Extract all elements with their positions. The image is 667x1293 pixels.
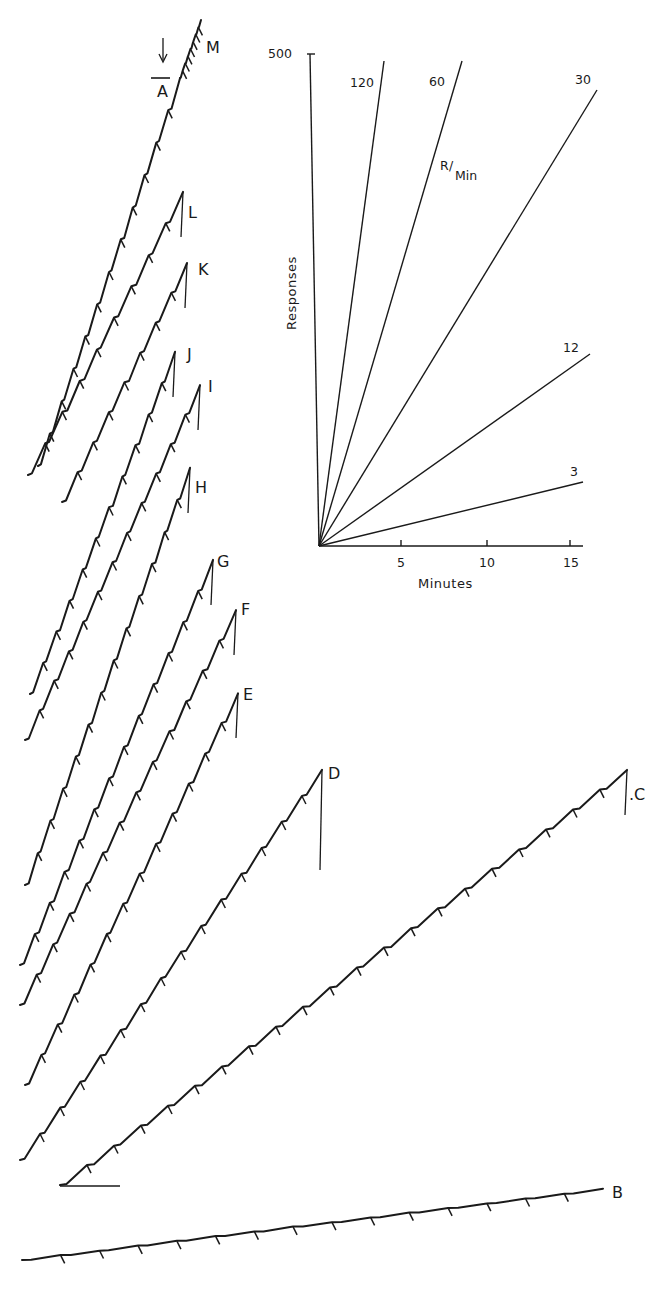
reinforcement-pip [50,821,54,829]
cumulative-curve-d [20,770,322,1160]
reinforcement-pip [154,685,158,693]
reinforcement-pip [89,725,93,733]
reinforcement-pip [564,1194,568,1202]
reinforcement-pip [181,952,185,960]
reinforcement-pip [121,240,125,248]
reinforcement-pip [156,844,160,852]
reinforcement-pip [40,1134,44,1142]
reinforcement-pip [122,476,126,484]
reinforcement-pip [332,1222,336,1230]
reinforcement-pip [156,143,160,151]
reinforcement-pip [170,732,174,740]
rate-label-60: 60 [429,74,445,89]
reinforcement-pip [70,601,74,609]
reinforcement-pip [139,716,143,724]
reinforcement-pip [145,175,149,183]
curve-label-l: L [188,203,197,222]
reinforcement-pip [141,1126,145,1134]
reinforcement-pip [138,1246,142,1254]
cumulative-curve-g [20,560,213,965]
reinforcement-pip [411,928,415,936]
reinforcement-pip [97,349,101,357]
reinforcement-pip [600,790,604,798]
reinforcement-pip [156,474,160,482]
rate-unit-label: R / Min [440,158,477,183]
rate-line-60 [319,61,462,546]
reinforcement-pip [97,304,101,312]
reinforcement-pip [69,651,73,659]
y-axis [310,54,319,546]
reinforcement-pip [191,49,195,57]
reinforcement-pip [216,1236,220,1244]
reinforcement-pip [168,110,172,118]
reinforcement-pip [409,1213,413,1221]
reinforcement-pip [94,809,98,817]
rate-label-12: 12 [563,340,579,355]
reinforcement-pip [56,632,60,640]
arrow-annotation-a [151,38,170,78]
rate-line-12 [319,354,590,546]
reinforcement-pip [171,444,175,452]
y-tick-label-500: 500 [268,46,292,61]
reinforcement-pip [166,223,170,231]
pen-reset-line [234,610,236,655]
reinforcement-pip [125,383,129,391]
reinforcement-pip [120,823,124,831]
reinforcement-pip [61,1255,65,1263]
reinforcement-pip [93,442,97,450]
cumulative-curve-h [25,468,190,885]
reinforcement-pip [384,948,388,956]
reinforcement-pip [109,778,113,786]
reinforcement-pip [171,293,175,301]
x-tick-label-10: 10 [479,555,495,570]
pen-reset-line [625,770,627,815]
reinforcement-pip [276,1027,280,1035]
reinforcement-pip [152,564,156,572]
reinforcement-pip [103,853,107,861]
reinforcement-pip [85,337,89,345]
reinforcement-pip [101,1056,105,1064]
reinforcement-pip [203,671,207,679]
reinforcement-pip [114,661,118,669]
reinforcement-pip [136,792,140,800]
reinforcement-pip [70,914,74,922]
pen-reset-line [181,192,183,237]
reinforcement-pip [149,414,153,422]
y-axis-title: Responses [284,256,299,330]
curve-label-m: M [206,38,220,57]
reinforcement-pip [76,757,80,765]
reinforcement-pip [188,56,192,64]
reinforcement-pip [35,934,39,942]
svg-text:R: R [440,158,449,173]
rate-label-120: 120 [350,75,374,90]
reinforcement-pip [41,1055,45,1063]
reinforcement-pip [189,784,193,792]
rate-label-30: 30 [575,72,591,87]
reinforcement-pip [492,869,496,877]
reinforcement-pip [221,900,225,908]
reinforcement-pip [156,323,160,331]
reinforcement-pip [140,353,144,361]
reinforcement-pip [282,822,286,830]
curve-label-h: H [195,478,207,497]
reinforcement-pip [50,903,54,911]
curve-label-a: A [157,82,168,101]
reinforcement-pip [109,508,113,516]
reinforcement-pip [114,1146,118,1154]
reinforcement-pip [330,987,334,995]
reinforcement-pip [177,1241,181,1249]
reinforcement-pip [153,762,157,770]
rate-guide-inset: 500 120 60 30 12 3 R / Min 5 10 15 Minut… [268,46,597,591]
x-axis-title: Minutes [418,576,473,591]
cumulative-curve-c [60,770,627,1185]
reinforcement-pip [162,383,166,391]
rate-label-3: 3 [570,464,578,479]
reinforcement-pip [165,532,169,540]
cumulative-curve-e [25,693,238,1085]
reinforcement-pip [195,1086,199,1094]
rate-line-3 [319,482,583,546]
reinforcement-pip [185,64,189,72]
reinforcement-pip [205,753,209,761]
reinforcement-pip [201,926,205,934]
svg-text:/: / [449,158,454,173]
